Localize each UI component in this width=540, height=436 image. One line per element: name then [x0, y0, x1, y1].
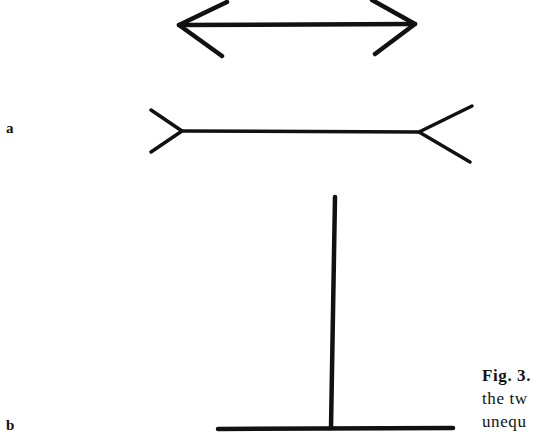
left-fin-icon	[151, 110, 182, 152]
left-arrowhead-icon	[179, 2, 227, 56]
caption-line-2: unequ	[482, 410, 531, 433]
figure-caption: Fig. 3. the tw unequ	[482, 364, 531, 433]
panel-label-a: a	[6, 121, 14, 136]
right-fin-icon	[419, 106, 472, 162]
vertical-horizontal-figure	[218, 197, 453, 429]
caption-line-1: the tw	[482, 387, 531, 410]
lower-shaft-line	[182, 131, 419, 132]
right-arrowhead-icon	[372, 0, 415, 54]
horizontal-line	[218, 428, 453, 429]
panel-label-b: b	[6, 418, 14, 433]
figure-number: Fig. 3.	[482, 364, 531, 387]
figure-illustration	[0, 0, 540, 436]
muller-lyer-fin-figure	[151, 106, 472, 162]
vertical-line	[331, 197, 335, 428]
muller-lyer-arrowhead-figure	[179, 0, 415, 56]
upper-shaft-line	[179, 24, 415, 25]
